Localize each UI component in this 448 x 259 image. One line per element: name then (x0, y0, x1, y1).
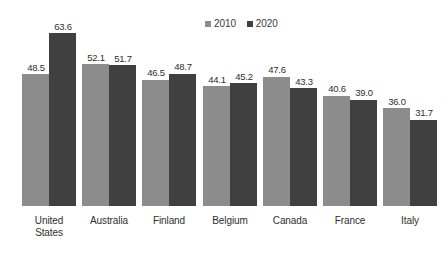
bar-2010[interactable] (82, 64, 109, 206)
bar-group: 36.031.7 (383, 0, 439, 206)
bar-2020[interactable] (350, 100, 377, 206)
plot-area: 48.563.652.151.746.548.744.145.247.643.3… (0, 0, 448, 206)
bar-group: 47.643.3 (263, 0, 319, 206)
category-axis: UnitedStatesAustraliaFinlandBelgiumCanad… (0, 206, 448, 259)
bar-2020[interactable] (49, 33, 76, 206)
bar-group: 52.151.7 (82, 0, 138, 206)
bar-2010[interactable] (383, 108, 410, 206)
bar-value-label: 36.0 (377, 97, 417, 107)
bar-group: 44.145.2 (203, 0, 259, 206)
bar-2020[interactable] (109, 65, 136, 206)
bar-group: 46.548.7 (142, 0, 198, 206)
bar-value-label: 51.7 (103, 54, 143, 64)
bar-2010[interactable] (323, 96, 350, 206)
bar-group: 40.639.0 (323, 0, 379, 206)
bar-2020[interactable] (230, 83, 257, 206)
bar-value-label: 48.7 (163, 62, 203, 72)
bar-value-label: 47.6 (257, 65, 297, 75)
bar-chart: 2010 2020 48.563.652.151.746.548.744.145… (0, 0, 448, 259)
bar-2010[interactable] (142, 80, 169, 206)
bar-2010[interactable] (263, 77, 290, 206)
bar-2020[interactable] (290, 88, 317, 206)
bar-2020[interactable] (169, 74, 196, 206)
category-label: Italy (373, 215, 447, 227)
bar-2010[interactable] (22, 74, 49, 206)
bar-2010[interactable] (203, 86, 230, 206)
bar-group: 48.563.6 (22, 0, 78, 206)
bar-2020[interactable] (410, 120, 437, 206)
bar-value-label: 63.6 (43, 22, 83, 32)
bar-value-label: 31.7 (404, 108, 444, 118)
